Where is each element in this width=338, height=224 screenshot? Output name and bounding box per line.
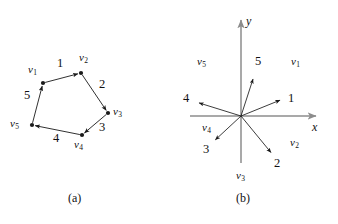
panel-caption-b: (b) [236, 192, 250, 204]
axis-label-y: y [246, 15, 251, 27]
vertex-dot-v5 [30, 123, 34, 127]
vertex-label-v1: v1 [28, 64, 37, 76]
vertex-label-v3: v3 [113, 106, 122, 118]
edge-label-2: 2 [99, 78, 105, 91]
edge-label-5: 5 [24, 89, 30, 102]
vector-5 [241, 79, 253, 116]
panel-caption-a: (a) [68, 192, 81, 204]
edge-label-1: 1 [57, 57, 63, 70]
region-label-v1: v1 [291, 56, 300, 68]
edge-label-4: 4 [53, 132, 59, 145]
figure-root: 12345v1v2v3v4v5xy12345v1v2v3v4v5(a)(b) [0, 0, 338, 224]
vector-label-4: 4 [183, 92, 189, 105]
vector-4 [199, 103, 241, 116]
region-label-v4: v4 [202, 122, 211, 134]
polygon-edge-5 [33, 86, 43, 123]
vector-label-2: 2 [274, 157, 280, 170]
vector-2 [241, 116, 271, 153]
vertex-label-v2: v2 [79, 52, 88, 64]
vector-label-5: 5 [255, 55, 261, 68]
vertex-label-v5: v5 [10, 118, 19, 130]
vector-label-1: 1 [288, 92, 294, 105]
region-label-v2: v2 [290, 137, 299, 149]
vertex-label-v4: v4 [74, 139, 83, 151]
vertex-dot-v2 [79, 71, 83, 75]
vector-3 [215, 116, 241, 140]
vertex-dot-v1 [41, 81, 45, 85]
vector-label-3: 3 [203, 143, 209, 156]
vector-1 [241, 100, 280, 116]
axis-label-x: x [312, 121, 317, 133]
region-label-v3: v3 [236, 170, 245, 182]
polygon-edge-1 [45, 74, 78, 83]
region-label-v5: v5 [197, 56, 206, 68]
vertex-dot-v3 [106, 111, 110, 115]
figure-canvas [0, 0, 338, 224]
vertex-dot-v4 [80, 133, 84, 137]
edge-label-3: 3 [99, 121, 105, 134]
